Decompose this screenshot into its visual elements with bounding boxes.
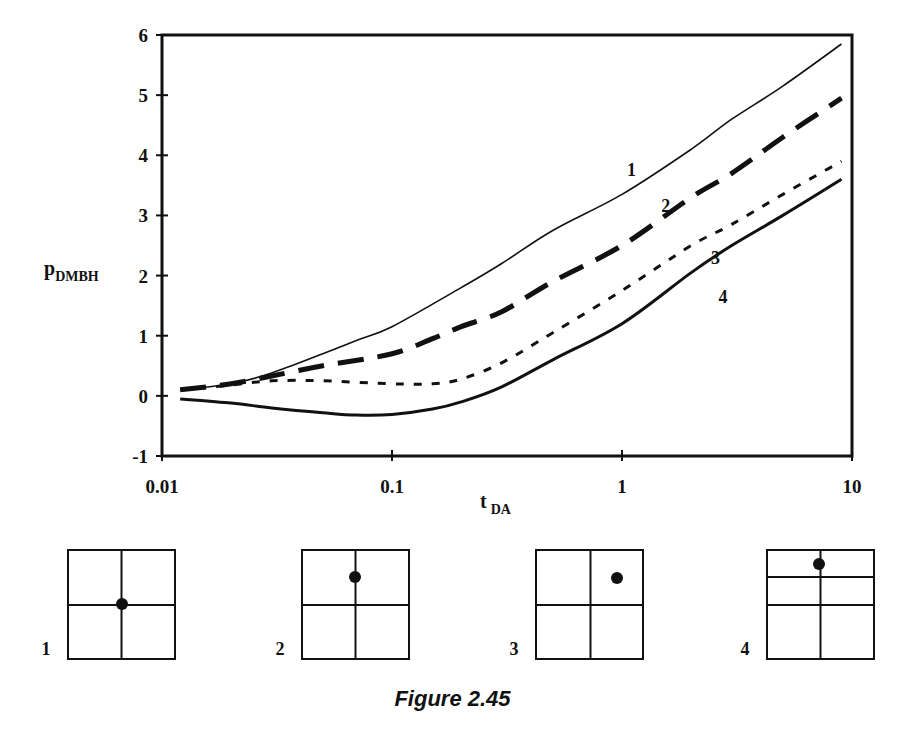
schematic-2: 2 bbox=[276, 550, 410, 659]
y-tick-label: 4 bbox=[139, 145, 149, 166]
schematic-label: 4 bbox=[741, 639, 750, 659]
x-tick-label: 1 bbox=[617, 476, 627, 497]
y-tick-label: 6 bbox=[139, 25, 149, 46]
curve-label-2: 2 bbox=[661, 196, 670, 216]
schematic-3: 3 bbox=[510, 550, 644, 659]
curve-2 bbox=[180, 98, 841, 390]
well-dot-icon bbox=[611, 572, 623, 584]
curve-label-1: 1 bbox=[627, 160, 636, 180]
y-tick-label: -1 bbox=[132, 446, 148, 467]
well-dot-icon bbox=[813, 558, 825, 570]
y-tick-label: 0 bbox=[139, 386, 149, 407]
y-tick-label: 1 bbox=[139, 326, 149, 347]
figure-caption: Figure 2.45 bbox=[0, 686, 905, 712]
curve-label-3: 3 bbox=[711, 248, 720, 268]
x-tick-label: 0.1 bbox=[380, 476, 404, 497]
schematic-label: 1 bbox=[42, 639, 51, 659]
well-location-schematics: 1234 bbox=[42, 550, 875, 659]
y-axis-label: pDMBH bbox=[44, 257, 99, 284]
curve-3 bbox=[180, 161, 841, 389]
schematic-label: 3 bbox=[510, 639, 519, 659]
x-tick-label: 10 bbox=[843, 476, 862, 497]
axes: 6543210-10.010.1110 bbox=[132, 25, 861, 497]
x-axis-label: tDA bbox=[480, 490, 512, 517]
y-tick-label: 2 bbox=[139, 266, 149, 287]
curve-label-4: 4 bbox=[719, 287, 728, 307]
schematic-1: 1 bbox=[42, 550, 176, 659]
curves bbox=[180, 44, 841, 415]
schematic-label: 2 bbox=[276, 639, 285, 659]
plot-frame bbox=[162, 35, 852, 456]
schematic-4: 4 bbox=[741, 550, 875, 659]
well-dot-icon bbox=[116, 598, 128, 610]
y-tick-label: 3 bbox=[139, 205, 149, 226]
well-dot-icon bbox=[349, 571, 361, 583]
y-tick-label: 5 bbox=[139, 85, 149, 106]
chart-figure: 6543210-10.010.1110 1234 pDMBH tDA 1234 bbox=[0, 0, 905, 736]
curve-1 bbox=[180, 44, 841, 390]
x-tick-label: 0.01 bbox=[145, 476, 178, 497]
curve-4 bbox=[180, 179, 841, 415]
